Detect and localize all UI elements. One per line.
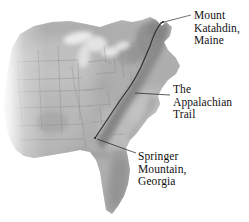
label-line: Trail — [173, 108, 232, 121]
west-edge-fade — [0, 0, 46, 222]
label-line: Mountain, — [138, 163, 187, 176]
label-mount-katahdin: Mount Katahdin, Maine — [194, 9, 240, 47]
label-springer-mountain: Springer Mountain, Georgia — [138, 150, 187, 188]
label-line: The — [173, 83, 232, 96]
label-line: Mount — [194, 9, 240, 22]
label-line: Appalachian — [173, 96, 232, 109]
label-appalachian-trail: The Appalachian Trail — [173, 83, 232, 121]
label-line: Maine — [194, 34, 240, 47]
label-line: Georgia — [138, 175, 187, 188]
label-line: Springer — [138, 150, 187, 163]
label-line: Katahdin, — [194, 22, 240, 35]
appalachian-trail-map-figure: Mount Katahdin, Maine The Appalachian Tr… — [0, 0, 249, 222]
